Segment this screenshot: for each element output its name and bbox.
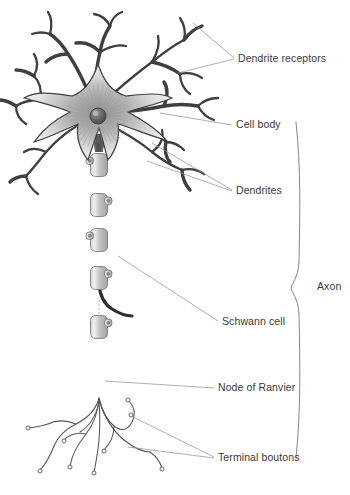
- label-leader-lines: [105, 23, 234, 458]
- terminal-bouton-knob-5: [126, 398, 130, 402]
- diagram-labels: Dendrite receptors Cell body Dendrites A…: [218, 52, 341, 463]
- label-terminal-boutons: Terminal boutons: [218, 451, 300, 463]
- schwann-cell-5: [91, 316, 113, 339]
- myelin-sheath-body: [91, 267, 108, 290]
- dendrite-receptor-tip: [16, 106, 26, 124]
- schwann-cell-nucleus-dot: [107, 272, 110, 275]
- dendrite-receptor-tip: [24, 149, 46, 152]
- dendrite-receptor-tip: [198, 98, 218, 106]
- label-cell-body: Cell body: [236, 118, 281, 130]
- schwann-cell-4: [91, 267, 113, 290]
- terminal-bouton-knob-3: [68, 465, 72, 469]
- myelin-sheath-body: [91, 316, 108, 339]
- dendrite-branch: [46, 54, 68, 62]
- terminal-branch-2: [40, 446, 54, 470]
- terminal-bouton-knob-6: [160, 467, 164, 471]
- dendrite-branch: [0, 100, 16, 106]
- dendrite-receptor-tip: [32, 33, 50, 35]
- terminal-bouton-knobs: [26, 398, 164, 475]
- leader-dendrite-receptors-0: [193, 23, 234, 58]
- dendrite-receptor-tip: [180, 18, 185, 40]
- terminal-bouton-knob-4: [92, 471, 96, 475]
- terminal-bouton-knob-2: [26, 426, 30, 430]
- dendrite-receptor-tip: [180, 73, 202, 78]
- terminal-bouton-knob-1: [38, 469, 42, 473]
- dendrite-branch: [152, 62, 180, 74]
- terminal-bouton-knob-8: [102, 449, 106, 453]
- label-node-of-ranvier: Node of Ranvier: [218, 381, 296, 393]
- dendrite-receptor-tip: [166, 142, 184, 150]
- terminal-branch-12: [104, 426, 114, 450]
- schwann-cell-2: [91, 194, 113, 217]
- terminal-branch-9: [150, 452, 162, 468]
- dendrite-receptor-tip: [34, 54, 37, 76]
- nucleus: [90, 108, 106, 124]
- dendrite-branch: [10, 176, 26, 182]
- axon-bracket: [291, 122, 300, 458]
- dendrite-branch: [76, 43, 100, 52]
- leader-schwann-cell-0: [118, 256, 218, 321]
- terminal-branch-1: [54, 398, 99, 446]
- myelin-sheath-body: [91, 194, 108, 217]
- dendrite-branch: [16, 70, 34, 76]
- dendrite-branch: [182, 170, 190, 190]
- dendrite-receptor-tip: [180, 74, 190, 94]
- dendrite-receptor-tip: [26, 176, 38, 194]
- terminal-bouton-knob-7: [62, 439, 66, 443]
- label-schwann-cell: Schwann cell: [222, 315, 285, 327]
- label-dendrites: Dendrites: [236, 184, 282, 196]
- dendrite-receptor-tip: [110, 12, 122, 26]
- schwann-cell-nucleus-dot: [88, 234, 91, 237]
- schwann-cell-3: [86, 229, 108, 252]
- leader-dendrites-0: [152, 143, 232, 190]
- leader-terminal-boutons-1: [128, 447, 214, 458]
- myelin-sheath-body: [91, 229, 108, 252]
- leader-dendrites-1: [147, 161, 232, 191]
- dendrite-receptor-tip: [198, 106, 214, 120]
- terminal-branch-8: [99, 400, 150, 452]
- dendrite-branch: [164, 82, 167, 106]
- terminal-branch-4: [28, 424, 48, 428]
- nucleus-highlight: [93, 111, 98, 116]
- neuron-illustration: Dendrite receptors Cell body Dendrites A…: [0, 0, 350, 495]
- label-dendrite-receptors: Dendrite receptors: [238, 52, 326, 64]
- terminal-bouton-branches: [28, 398, 162, 472]
- dendrite-receptor-tip: [100, 45, 126, 52]
- leader-dendrite-receptors-1: [178, 59, 234, 73]
- terminal-branch-3: [48, 421, 76, 424]
- leader-node-of-ranvier-0: [105, 381, 214, 388]
- myelin-sheath-body: [91, 154, 108, 177]
- label-axon: Axon: [317, 280, 341, 292]
- leader-cell-body-0: [160, 113, 232, 125]
- neuron-diagram: Dendrite receptors Cell body Dendrites A…: [0, 0, 350, 495]
- dendrite-receptor-tip: [48, 12, 51, 34]
- schwann-cell-nucleus-dot: [107, 321, 110, 324]
- dendrite-receptor-tip: [94, 14, 110, 26]
- schwann-cell-nucleus-dot: [107, 199, 110, 202]
